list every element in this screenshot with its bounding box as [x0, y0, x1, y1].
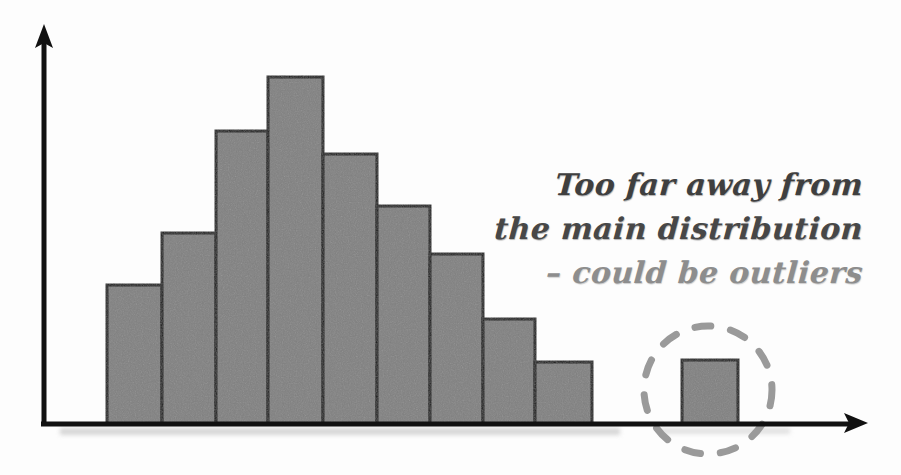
outlier-bar[interactable]: [682, 360, 738, 424]
baseline-shadow: [60, 428, 790, 435]
bar[interactable]: [162, 233, 216, 424]
bar[interactable]: [323, 154, 377, 424]
bar-group-main: [107, 77, 592, 424]
bar[interactable]: [430, 254, 483, 424]
bar[interactable]: [483, 319, 535, 424]
bar[interactable]: [268, 77, 323, 424]
bar[interactable]: [216, 131, 268, 424]
figure-canvas: Too far away from the main distribution …: [0, 0, 901, 475]
bar[interactable]: [535, 362, 592, 424]
bar-group-outlier: [682, 360, 738, 424]
bar[interactable]: [107, 285, 162, 424]
bar[interactable]: [377, 206, 430, 424]
histogram-chart: [0, 0, 901, 475]
